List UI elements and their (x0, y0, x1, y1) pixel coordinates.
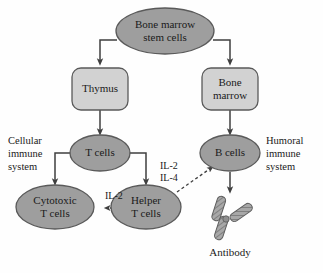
helper-t-cells-label-line1: Helper (131, 194, 161, 206)
node-cytotoxic-t-cells[interactable]: Cytotoxic T cells (16, 185, 94, 229)
il2-to-bcells-label: IL-2 (160, 160, 178, 171)
edge-stemcells-to-thymus (100, 40, 117, 62)
cytotoxic-t-cells-label-line1: Cytotoxic (33, 194, 77, 206)
humoral-label-line3: system (266, 161, 295, 172)
node-thymus[interactable]: Thymus (72, 68, 128, 110)
edge-tcells-to-helper (128, 153, 146, 182)
stem-cells-label-line1: Bone marrow (135, 18, 195, 30)
humoral-label-line1: Humoral (266, 135, 303, 146)
bone-marrow-label-line2: marrow (213, 89, 247, 101)
b-cells-label: B cells (215, 146, 245, 158)
helper-t-cells-label-line2: T cells (131, 207, 160, 219)
antibody-icon (211, 195, 254, 240)
antibody-arm-right (228, 202, 253, 223)
node-t-cells[interactable]: T cells (70, 135, 130, 171)
antibody-label: Antibody (209, 246, 251, 258)
diagram-canvas: Bone marrow stem cells Thymus Bone marro… (0, 0, 323, 273)
cellular-label-line3: system (8, 161, 37, 172)
il4-to-bcells-label: IL-4 (160, 172, 178, 183)
node-stem-cells[interactable]: Bone marrow stem cells (116, 8, 214, 54)
node-b-cells[interactable]: B cells (200, 135, 260, 171)
edge-stemcells-to-bonemarrow (213, 40, 230, 62)
edge-helper-to-bcells-cytokine (177, 168, 211, 192)
humoral-label-line2: immune (266, 148, 301, 159)
antibody-hinge (223, 216, 229, 222)
edge-tcells-to-cytotoxic (55, 153, 72, 182)
cellular-label-line1: Cellular (8, 135, 42, 146)
t-cells-label: T cells (85, 146, 114, 158)
humoral-immune-system-label: Humoral immune system (266, 135, 303, 172)
thymus-label: Thymus (82, 82, 118, 94)
cellular-label-line2: immune (8, 148, 43, 159)
il2-to-cytotoxic-label: IL-2 (105, 190, 123, 201)
immune-system-diagram: Bone marrow stem cells Thymus Bone marro… (0, 0, 323, 273)
cellular-immune-system-label: Cellular immune system (8, 135, 43, 172)
cytotoxic-t-cells-label-line2: T cells (40, 207, 69, 219)
stem-cells-label-line2: stem cells (143, 31, 187, 43)
bone-marrow-label-line1: Bone (218, 76, 241, 88)
node-bone-marrow[interactable]: Bone marrow (202, 68, 258, 110)
